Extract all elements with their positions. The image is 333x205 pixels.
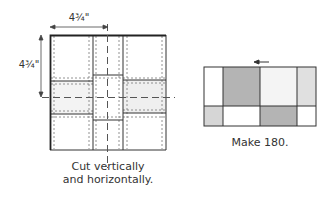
caption-line-2: and horizontally. bbox=[50, 173, 166, 186]
width-dimension bbox=[50, 25, 108, 29]
piece-bottom-4 bbox=[297, 106, 316, 126]
piece-top-4 bbox=[297, 67, 316, 106]
piece-top-2 bbox=[223, 67, 260, 106]
height-dimension bbox=[39, 35, 43, 97]
right-middle-shade bbox=[123, 80, 166, 113]
width-label: 4¾" bbox=[69, 12, 90, 23]
press-direction-arrow-icon bbox=[254, 60, 269, 64]
left-caption: Cut vertically and horizontally. bbox=[50, 160, 166, 186]
piece-bottom-1 bbox=[204, 106, 223, 126]
piece-bottom-2 bbox=[223, 106, 260, 126]
caption-line-1: Cut vertically bbox=[50, 160, 166, 173]
piece-top-3 bbox=[260, 67, 297, 106]
piece-top-1 bbox=[204, 67, 223, 106]
height-label: 4¾" bbox=[19, 59, 40, 70]
piece-bottom-3 bbox=[260, 106, 297, 126]
right-caption: Make 180. bbox=[204, 136, 316, 149]
left-block: 4¾" 4¾" bbox=[19, 12, 175, 168]
right-block bbox=[204, 60, 316, 126]
